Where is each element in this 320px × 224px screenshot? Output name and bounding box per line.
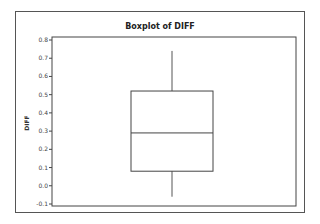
y-tick-label: -0.1: [36, 200, 48, 207]
y-tick-label: 0.6: [38, 72, 48, 79]
y-tick-label: 0.2: [38, 145, 48, 152]
iqr-box: [131, 91, 213, 171]
boxplot-svg: 0.80.70.60.50.40.30.20.10.0-0.1: [0, 0, 320, 224]
plot-area: [52, 37, 296, 206]
y-axis-ticks: 0.80.70.60.50.40.30.20.10.0-0.1: [36, 36, 52, 207]
y-tick-label: 0.3: [38, 127, 48, 134]
box-element: [131, 51, 213, 197]
y-tick-label: 0.8: [38, 36, 48, 43]
y-tick-label: 0.1: [38, 164, 48, 171]
y-tick-label: 0.7: [38, 54, 48, 61]
y-tick-label: 0.4: [38, 109, 48, 116]
y-tick-label: 0.5: [38, 91, 48, 98]
y-tick-label: 0.0: [38, 182, 48, 189]
